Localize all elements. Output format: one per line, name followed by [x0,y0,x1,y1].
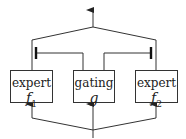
expert-2-label: expert [136,76,177,90]
gating-lines [37,53,150,70]
expert-1-box: expert f1 [10,70,53,103]
expert-2-symbol: f2 [136,91,177,111]
expert-2-subscript: 2 [156,99,162,109]
expert-1-subscript: 1 [31,99,37,109]
gating-box: gating g [73,70,115,103]
output-merge-lines [32,27,156,70]
expert-1-label: expert [11,76,52,90]
expert-1-symbol: f1 [11,91,52,111]
mixture-of-experts-diagram: expert f1 gating g expert f2 [0,0,186,139]
gating-label: gating [74,76,114,90]
gating-symbol-main: g [90,90,99,106]
expert-2-box: expert f2 [135,70,178,103]
gating-symbol: g [74,91,114,105]
input-lines [32,118,156,138]
